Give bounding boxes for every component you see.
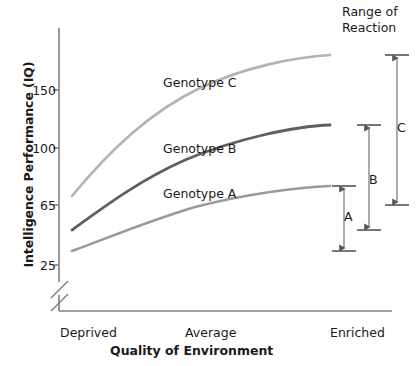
y-tick-label-25: 25 xyxy=(22,258,56,273)
series-label-genotype-c: Genotype C xyxy=(163,75,237,90)
y-tick-label-100: 100 xyxy=(22,141,56,156)
x-axis-title: Quality of Environment xyxy=(110,343,273,358)
bracket-label-c: C xyxy=(397,120,406,135)
chart-canvas xyxy=(0,0,418,366)
range-of-reaction-chart: Intelligence Performance (IQ) 150 100 65… xyxy=(0,0,418,366)
x-tick-label-average: Average xyxy=(185,325,236,340)
range-of-reaction-heading: Range of Reaction xyxy=(342,4,412,36)
x-tick-label-enriched: Enriched xyxy=(330,325,385,340)
series-label-genotype-a: Genotype A xyxy=(163,186,236,201)
y-tick-label-150: 150 xyxy=(22,83,56,98)
series-label-genotype-b: Genotype B xyxy=(163,141,236,156)
y-tick-label-65: 65 xyxy=(22,198,56,213)
bracket-label-b: B xyxy=(369,172,378,187)
bracket-label-a: A xyxy=(344,209,353,224)
x-tick-label-deprived: Deprived xyxy=(60,325,117,340)
